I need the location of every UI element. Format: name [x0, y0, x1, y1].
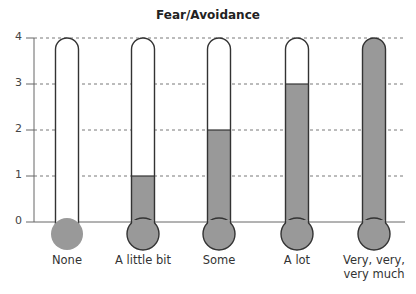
category-label: A little bit	[103, 253, 183, 267]
category-label: None	[27, 253, 107, 267]
y-tick-label: 2	[8, 122, 22, 135]
y-tick-label: 4	[8, 30, 22, 43]
thermometer-tube	[56, 38, 79, 222]
thermometer-fill	[286, 84, 309, 224]
bulb-neck	[208, 220, 230, 228]
category-label: Some	[179, 253, 259, 267]
category-label: Very, very,very much	[334, 253, 414, 281]
bulb-neck	[132, 220, 154, 228]
thermometer-fill	[208, 130, 231, 224]
bulb-neck	[286, 220, 308, 228]
y-tick-label: 0	[8, 214, 22, 227]
thermometer-chart	[0, 0, 416, 294]
thermometer-fill	[132, 176, 155, 224]
y-tick-label: 1	[8, 168, 22, 181]
bulb-neck	[363, 220, 385, 228]
category-label: A lot	[257, 253, 337, 267]
thermometer-fill	[363, 38, 386, 222]
thermometer-bulb	[51, 218, 83, 250]
y-tick-label: 3	[8, 76, 22, 89]
